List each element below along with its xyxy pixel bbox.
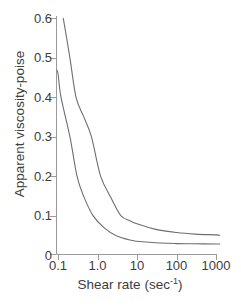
lower-curve-line (56, 70, 220, 244)
x-tick-label: 0.1 (38, 259, 78, 272)
x-axis-title-superscript: -1 (170, 276, 178, 286)
y-tick-label: 0.4 (20, 91, 52, 104)
x-axis-title-text: Shear rate (sec (78, 277, 170, 292)
y-tick-label: 0.3 (20, 130, 52, 143)
y-tick-label: 0.6 (20, 12, 52, 25)
viscosity-shear-rate-chart: Apparent viscosity-poise Shear rate (sec… (0, 0, 241, 307)
x-axis-title-suffix: ) (178, 277, 183, 292)
x-tick-label: 1.0 (78, 259, 118, 272)
axis-lines (57, 16, 218, 255)
x-tick-label: 1000 (196, 259, 236, 272)
y-tick-label: 0.2 (20, 170, 52, 183)
x-tick-label: 100 (157, 259, 197, 272)
x-tick-label: 10 (117, 259, 157, 272)
x-axis-title: Shear rate (sec-1) (20, 277, 240, 292)
y-tick-label: 0.5 (20, 51, 52, 64)
y-tick-label: 0.1 (20, 209, 52, 222)
